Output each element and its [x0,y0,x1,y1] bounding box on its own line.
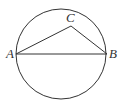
segment-ac [16,26,71,54]
point-label-b: B [109,46,117,61]
geometry-diagram: A B C [0,0,123,108]
point-label-a: A [5,46,14,61]
segment-cb [71,26,107,54]
point-label-c: C [66,10,75,25]
